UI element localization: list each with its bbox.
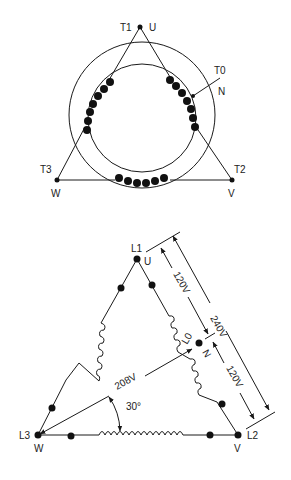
junction-dot (68, 433, 75, 440)
coil-bottom (99, 432, 185, 436)
terminal-l0-dot (196, 340, 203, 347)
label-t2: T2 (234, 164, 246, 175)
label-n-top: N (218, 86, 225, 97)
dim-tick-top (146, 232, 180, 252)
coil-right (169, 316, 217, 402)
lead-v-right (196, 127, 232, 180)
top-winding-diagram: T1 U T0 N T3 W T2 V (40, 22, 246, 199)
lead-u-right (140, 27, 170, 77)
voltage-208-line-lower (40, 396, 109, 434)
junction-dot (207, 432, 214, 439)
terminal-l2-dot (235, 432, 242, 439)
label-w-bottom: W (34, 443, 44, 454)
neutral-tap-dot (191, 94, 195, 98)
lead-u-left (109, 27, 140, 80)
voltage-208-line-upper (145, 349, 192, 376)
dim-240v-upper (173, 236, 210, 303)
label-t3: T3 (40, 164, 52, 175)
label-120v-lower: 120V (224, 364, 245, 390)
label-t1: T1 (120, 22, 132, 33)
label-v-bottom: V (234, 443, 241, 454)
label-u-top: U (149, 22, 156, 33)
label-v-top: V (228, 188, 235, 199)
label-w-top: W (51, 188, 61, 199)
dim-120v-upper-a (161, 248, 172, 268)
label-l3: L3 (19, 430, 31, 441)
terminal-t1-dot (138, 25, 143, 30)
dim-120v-lower-a (213, 342, 224, 363)
lead-w-left (57, 127, 85, 180)
stator-inner-ring (88, 64, 196, 172)
label-n-bottom: N (200, 348, 213, 360)
junction-dot (219, 401, 226, 408)
label-120v-upper: 120V (171, 270, 192, 296)
junction-dot (149, 282, 156, 289)
label-208v: 208V (113, 371, 139, 392)
angle-arc-30 (109, 397, 120, 431)
label-l1: L1 (131, 243, 143, 254)
coil-left (79, 323, 105, 381)
bottom-delta-diagram: 208V 30° 240V 120V 120V L1 U L0 N L3 W L… (19, 232, 275, 454)
dim-120v-upper-b (188, 297, 208, 334)
label-u-bottom: U (144, 256, 151, 267)
label-30-degrees: 30° (126, 401, 141, 412)
terminal-l1-dot (134, 256, 141, 263)
dim-tick-middle (205, 333, 215, 339)
terminal-t2-dot (230, 178, 235, 183)
delta-generator-diagram: T1 U T0 N T3 W T2 V 208V (0, 0, 291, 480)
terminal-l3-dot (35, 432, 42, 439)
label-l2: L2 (247, 430, 259, 441)
terminal-t3-dot (55, 178, 60, 183)
label-t0: T0 (214, 65, 226, 76)
dim-tick-bottom (246, 412, 275, 429)
junction-dot (49, 405, 56, 412)
dim-120v-lower-b (240, 393, 254, 419)
label-l0: L0 (179, 330, 194, 346)
junction-dot (118, 285, 125, 292)
